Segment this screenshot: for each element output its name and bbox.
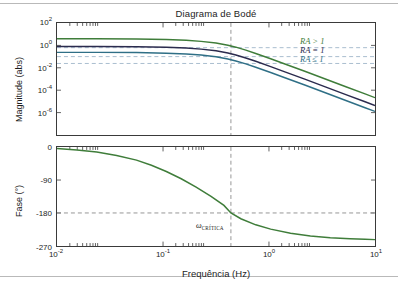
magnitude-ytick-4: 10-6	[24, 109, 52, 118]
magnitude-ytick-0: 102	[24, 18, 52, 27]
omega-subscript: CRÍTICA	[202, 225, 224, 231]
bode-figure: Diagrama de Bodé	[0, 0, 398, 291]
phase-plot-svg	[57, 147, 375, 246]
xtick-2: 100	[252, 250, 286, 259]
phase-plot-panel	[56, 146, 376, 247]
magnitude-curve-ra-le-1	[57, 52, 375, 111]
critical-frequency-annotation: ωCRÍTICA	[196, 221, 224, 231]
magnitude-ytick-1: 100	[24, 41, 52, 50]
magnitude-reference-lines	[57, 48, 375, 64]
phase-y-ticks	[57, 180, 375, 213]
magnitude-ytick-3: 10-4	[24, 86, 52, 95]
phase-ytick-0: 0	[24, 143, 52, 152]
magnitude-plot-svg	[57, 23, 375, 135]
magnitude-x-minor-ticks	[70, 23, 310, 27]
magnitude-curve-ra-eq-1	[57, 46, 375, 105]
xtick-1: 10-1	[146, 250, 180, 259]
phase-x-minor-ticks	[70, 147, 310, 246]
phase-ytick-2: -180	[24, 209, 52, 218]
magnitude-curve-ra-gt-1	[57, 39, 375, 98]
magnitude-axis-label: Magnitude (abs)	[14, 57, 24, 122]
phase-axis-label: Fase (°)	[14, 185, 24, 217]
magnitude-plot-panel	[56, 22, 376, 136]
xtick-0: 10-2	[39, 250, 73, 259]
page-title: Diagrama de Bodé	[56, 8, 376, 19]
top-rule	[0, 3, 398, 4]
phase-ytick-1: -90	[24, 176, 52, 185]
legend-label-ra-less-equal-1: RA ≤ 1	[300, 54, 323, 64]
x-axis-label: Frequência (Hz)	[56, 268, 376, 279]
xtick-3: 101	[359, 250, 393, 259]
magnitude-ytick-2: 10-2	[24, 64, 52, 73]
